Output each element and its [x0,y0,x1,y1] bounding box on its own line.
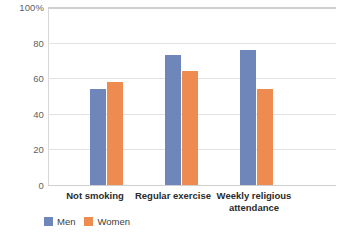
bar-women-weekly-religious-attendance [257,89,273,185]
x-label-regular-exercise: Regular exercise [133,190,213,202]
gridline-100 [48,7,336,9]
bar-group-regular-exercise [165,55,198,185]
bar-women-not-smoking [107,82,123,185]
legend-item-women: Women [84,216,130,227]
legend-swatch-women-icon [84,217,93,226]
x-label-weekly-religious-attendance: Weekly religious attendance [216,190,292,213]
bar-men-not-smoking [90,89,106,185]
bar-men-regular-exercise [165,55,181,185]
legend-label-men: Men [57,216,75,227]
bar-group-weekly-religious-attendance [240,50,273,185]
y-tick-label-20: 20 [33,144,44,155]
plot-area [48,7,336,185]
y-tick-label-0: 0 [39,180,44,191]
x-label-not-smoking: Not smoking [60,190,130,202]
chart-legend: Men Women [44,216,130,227]
y-axis-labels: 100% 80 60 40 20 0 [0,0,44,232]
bar-group-not-smoking [90,82,123,185]
legend-swatch-men-icon [44,217,53,226]
gridline-80 [48,43,336,44]
legend-label-women: Women [97,216,130,227]
y-tick-label-80: 80 [33,37,44,48]
legend-item-men: Men [44,216,75,227]
bar-women-regular-exercise [182,71,198,185]
y-tick-label-60: 60 [33,73,44,84]
y-tick-label-40: 40 [33,108,44,119]
y-tick-label-100: 100% [19,2,44,13]
gridline-0 [48,185,336,186]
bar-chart: 100% 80 60 40 20 0 Not smoking Regular e… [0,0,341,232]
bar-men-weekly-religious-attendance [240,50,256,185]
